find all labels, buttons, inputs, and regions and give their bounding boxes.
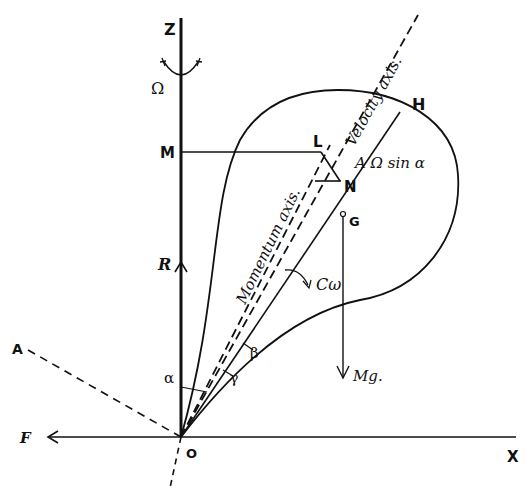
label-x: X <box>507 448 519 466</box>
label-n: N <box>344 178 357 196</box>
point-g <box>341 212 346 217</box>
label-omega: Ω <box>151 79 164 98</box>
label-mg: Mg. <box>352 367 383 385</box>
label-g: G <box>349 214 360 229</box>
label-velocity-axis: Velocity axis. <box>342 53 406 149</box>
label-h: H <box>412 95 425 114</box>
label-z: Z <box>164 20 176 39</box>
label-l: L <box>313 133 323 151</box>
label-f: F <box>19 429 32 447</box>
omega-arrowhead-right-icon <box>196 58 202 66</box>
label-m: M <box>160 144 175 162</box>
label-a-omega-sin-alpha: A Ω sin α <box>353 154 425 172</box>
omega-arrowhead-left-icon <box>160 58 166 66</box>
label-r: R <box>157 255 171 274</box>
label-o: O <box>186 446 197 461</box>
axis-oa-dashed <box>28 350 181 437</box>
label-beta: β <box>250 344 259 362</box>
label-c-omega: Cω <box>316 275 341 294</box>
line-ln <box>321 152 340 181</box>
spinning-top-diagram: Z Ω M R α A F O X L H N G A Ω sin α Cω M… <box>0 0 531 491</box>
label-momentum-axis: Momentum axis. <box>232 185 304 307</box>
label-a: A <box>12 341 23 357</box>
label-gamma: γ <box>230 370 238 386</box>
axis-below-o-dashed <box>170 437 181 488</box>
label-alpha: α <box>164 369 174 387</box>
